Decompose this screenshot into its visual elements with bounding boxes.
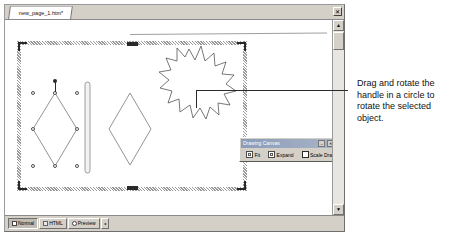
document-tabstrip: new_page_1.htm* ✕ <box>5 5 344 20</box>
diamond-shape[interactable] <box>109 93 151 165</box>
normal-view-icon <box>12 221 17 226</box>
fit-icon <box>246 151 253 158</box>
minimize-icon[interactable]: – <box>318 140 325 147</box>
horizontal-rule-element[interactable] <box>130 33 327 37</box>
close-icon[interactable]: ✕ <box>333 7 342 16</box>
expand-button-label: Expand <box>277 152 294 158</box>
selection-handle-ml[interactable] <box>31 127 35 131</box>
application-window: new_page_1.htm* ✕ <box>4 4 345 232</box>
scale-drawing-button[interactable]: Scale Drawing <box>299 149 332 160</box>
expand-icon <box>268 151 275 158</box>
toolbar-buttons: Fit Expand Scale Drawing <box>241 149 332 160</box>
toolbar-titlebar[interactable]: Drawing Canvas – ✕ <box>241 139 332 148</box>
expand-button[interactable]: Expand <box>265 149 296 160</box>
scroll-down-icon[interactable]: ▼ <box>333 204 344 215</box>
view-bar-spinner[interactable]: ◂ <box>101 218 109 229</box>
selected-diamond-shape[interactable] <box>33 93 77 166</box>
selection-handle-mr[interactable] <box>75 127 79 131</box>
drawing-canvas[interactable] <box>17 41 247 191</box>
fit-button-label: Fit <box>255 152 261 158</box>
selection-handle-bl[interactable] <box>31 164 35 168</box>
rounded-bar-shape[interactable] <box>85 82 90 173</box>
tab-html-label: HTML <box>49 218 63 229</box>
html-view-icon <box>43 221 48 226</box>
selection-handle-br[interactable] <box>75 164 79 168</box>
drawing-canvas-toolbar[interactable]: Drawing Canvas – ✕ Fit Expand Scale Draw… <box>239 137 332 162</box>
shapes-svg <box>17 41 247 191</box>
selection-handle-tl[interactable] <box>31 91 35 95</box>
preview-view-icon <box>72 221 77 226</box>
selection-handle-tr[interactable] <box>75 91 79 95</box>
shape-layer <box>17 41 247 191</box>
callout-leader-line <box>196 90 348 91</box>
scale-drawing-button-label: Scale Drawing <box>310 152 332 158</box>
scale-drawing-icon <box>302 151 309 158</box>
toolbar-title: Drawing Canvas <box>243 139 280 148</box>
fit-button[interactable]: Fit <box>243 149 263 160</box>
rotation-handle[interactable] <box>53 79 57 83</box>
tab-normal-label: Normal <box>18 218 34 229</box>
tab-html[interactable]: HTML <box>39 218 67 229</box>
tab-preview-label: Preview <box>78 218 96 229</box>
document-tab[interactable]: new_page_1.htm* <box>8 6 73 19</box>
callout-leader-elbow <box>196 90 197 108</box>
document-tab-label: new_page_1.htm* <box>19 7 63 20</box>
tab-normal[interactable]: Normal <box>8 218 38 229</box>
annotation-text: Drag and rotate the handle in a circle t… <box>357 78 451 124</box>
selection-handle-bc[interactable] <box>53 164 57 168</box>
explosion-star-shape[interactable] <box>159 46 236 119</box>
page-editing-surface[interactable]: Drawing Canvas – ✕ Fit Expand Scale Draw… <box>5 20 332 215</box>
scrollbar-thumb[interactable] <box>333 32 344 50</box>
view-tab-bar: Normal HTML Preview ◂ <box>5 215 344 231</box>
vertical-scrollbar[interactable]: ▲ ▼ <box>332 20 344 215</box>
scroll-up-icon[interactable]: ▲ <box>333 20 344 31</box>
rotation-handle-stem <box>55 82 56 92</box>
tab-preview[interactable]: Preview <box>68 218 100 229</box>
